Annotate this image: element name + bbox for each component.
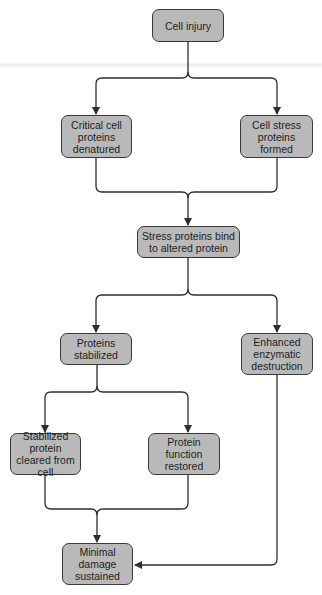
node-label: Stress proteins bind to altered protein <box>140 230 237 254</box>
node-critical-proteins-denatured: Critical cell proteins denatured <box>61 115 132 158</box>
node-protein-function-restored: Protein function restored <box>148 433 220 475</box>
node-stabilized-protein-cleared: Stabilized protein cleared from cell <box>10 433 81 475</box>
node-label: Proteins stabilized <box>63 337 129 361</box>
node-proteins-stabilized: Proteins stabilized <box>60 333 132 365</box>
node-label: Stabilized protein cleared from cell <box>13 430 78 478</box>
node-label: Enhanced enzymatic destruction <box>244 336 310 372</box>
node-stress-proteins-bind: Stress proteins bind to altered protein <box>137 226 240 258</box>
node-enhanced-enzymatic-destruction: Enhanced enzymatic destruction <box>241 333 313 375</box>
node-stress-proteins-formed: Cell stress proteins formed <box>240 115 313 158</box>
node-label: Cell injury <box>165 20 211 32</box>
node-label: Minimal damage sustained <box>65 546 130 582</box>
node-label: Cell stress proteins formed <box>243 119 310 155</box>
node-label: Critical cell proteins denatured <box>64 119 129 155</box>
connector-lines <box>0 0 322 595</box>
node-minimal-damage-sustained: Minimal damage sustained <box>62 543 133 585</box>
node-cell-injury: Cell injury <box>152 9 224 42</box>
node-label: Protein function restored <box>151 436 217 472</box>
